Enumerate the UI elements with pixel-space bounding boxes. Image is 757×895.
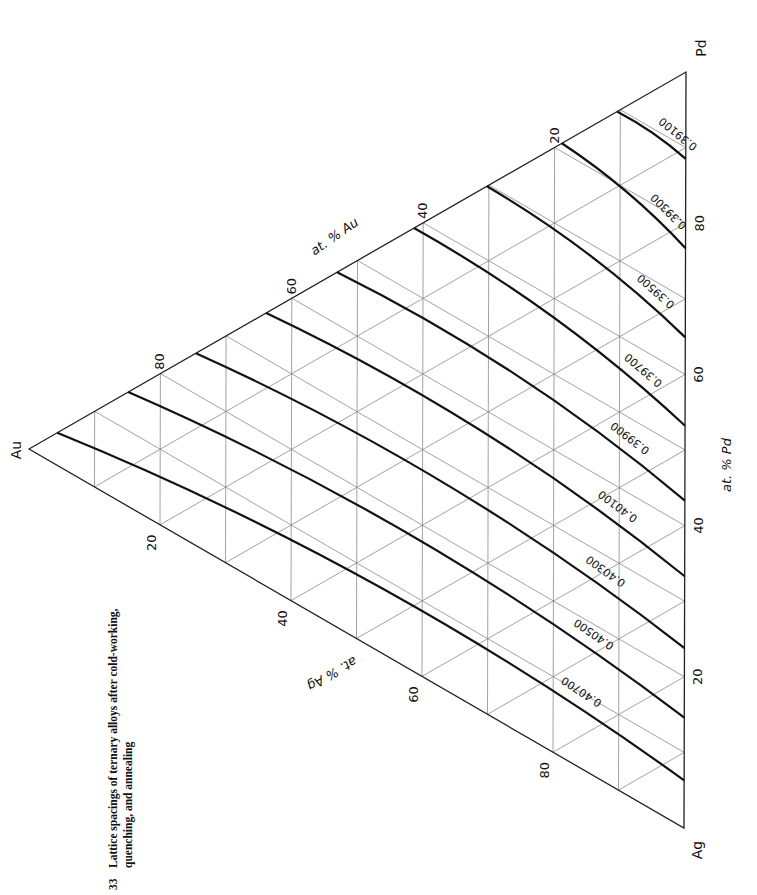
contour-label: 0.39900: [608, 419, 652, 457]
grid-line-au: [357, 261, 358, 639]
vertex-au-label: Au: [8, 441, 24, 459]
axis-title-pd: at. % Pd: [719, 437, 734, 492]
tick-pd-60: 60: [691, 366, 706, 383]
caption-line-1: Lattice spacings of ternary alloys after…: [107, 609, 119, 868]
contour-line: [562, 143, 686, 248]
contour-label: 0.39300: [648, 191, 689, 232]
caption-line-2: quenching, and annealing: [121, 609, 136, 890]
tick-au-20: 20: [547, 127, 562, 144]
contour-labels: 0.391000.393000.395000.397000.399000.401…: [559, 115, 700, 710]
axis-title-ag: at. % Ag: [305, 654, 360, 694]
vertex-pd-label: Pd: [693, 39, 709, 56]
contour-line: [337, 272, 685, 500]
tick-au-80: 80: [152, 353, 167, 370]
contour-label: 0.40700: [559, 674, 604, 710]
grid-line-au: [226, 336, 227, 563]
grid-line-au: [291, 298, 292, 600]
tick-pd-80: 80: [692, 215, 707, 232]
axis-title-au: at. % Au: [308, 214, 362, 258]
contour-label: 0.39700: [622, 350, 665, 389]
contour-label: 0.40100: [596, 487, 640, 525]
tick-ag-80: 80: [537, 762, 552, 779]
tick-pd-20: 20: [690, 669, 705, 686]
tick-pd-40: 40: [691, 517, 706, 534]
contour-lines: [57, 112, 686, 781]
vertex-ag-label: Ag: [689, 841, 705, 859]
axis-ticks: 204060802040608020406080: [144, 127, 707, 778]
tick-ag-20: 20: [144, 535, 159, 552]
tick-au-60: 60: [284, 278, 299, 295]
grid-line-au: [488, 185, 489, 714]
tick-ag-60: 60: [406, 686, 421, 703]
contour-label: 0.40500: [572, 616, 617, 653]
tick-au-40: 40: [415, 203, 430, 220]
contour-line: [57, 433, 684, 781]
tick-ag-40: 40: [275, 610, 290, 627]
figure-caption: 33Lattice spacings of ternary alloys aft…: [106, 609, 136, 890]
contour-label: 0.40300: [583, 553, 628, 590]
figure-number: 33: [106, 868, 121, 890]
contour-label: 0.39500: [635, 271, 678, 311]
grid-line-ag: [95, 148, 686, 487]
grid-lines: [95, 110, 686, 790]
